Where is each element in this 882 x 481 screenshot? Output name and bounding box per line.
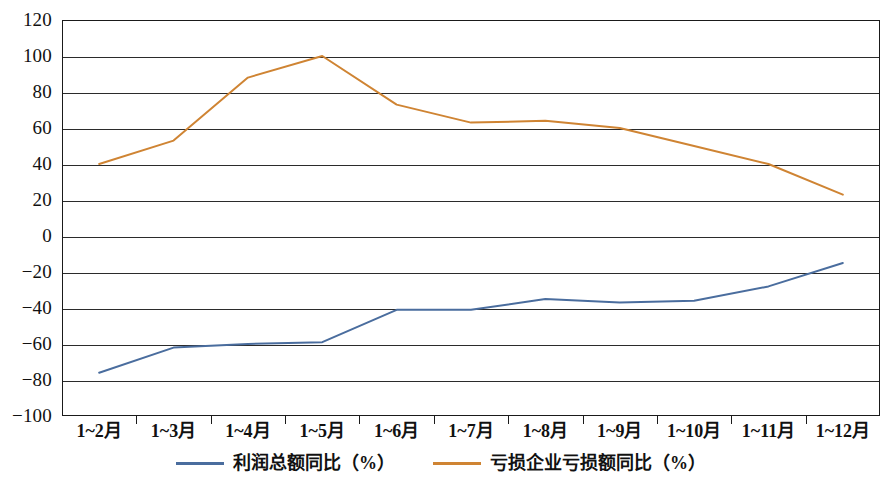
legend-label: 亏损企业亏损额同比（%） bbox=[490, 452, 706, 474]
y-axis-tick-label: 120 bbox=[0, 10, 52, 29]
x-axis-tick-label: 1~5月 bbox=[300, 420, 345, 442]
line-chart: 120100806040200−20−40−60−80−100 1~2月1~3月… bbox=[0, 0, 882, 481]
y-axis-tick-label: −60 bbox=[0, 334, 52, 353]
x-axis-tick-label: 1~6月 bbox=[374, 420, 419, 442]
x-axis-tick-label: 1~12月 bbox=[816, 420, 870, 442]
x-axis-tick-label: 1~7月 bbox=[448, 420, 493, 442]
legend-line-icon bbox=[433, 462, 481, 465]
series-layer bbox=[62, 20, 880, 416]
x-axis-tick-label: 1~10月 bbox=[667, 420, 721, 442]
y-axis-tick-label: −20 bbox=[0, 262, 52, 281]
legend-line-icon bbox=[176, 462, 224, 465]
series-line bbox=[99, 56, 843, 195]
legend-item[interactable]: 利润总额同比（%） bbox=[176, 452, 395, 474]
legend-item[interactable]: 亏损企业亏损额同比（%） bbox=[433, 452, 706, 474]
x-axis-tick-label: 1~11月 bbox=[742, 420, 795, 442]
x-axis-tick-label: 1~9月 bbox=[597, 420, 642, 442]
y-axis-tick-label: 60 bbox=[0, 118, 52, 137]
y-axis-tick-label: 20 bbox=[0, 190, 52, 209]
y-axis-tick-label: 0 bbox=[0, 226, 52, 245]
series-line bbox=[99, 263, 843, 373]
legend-label: 利润总额同比（%） bbox=[233, 452, 395, 474]
y-axis-tick-label: 80 bbox=[0, 82, 52, 101]
x-axis-tick-label: 1~8月 bbox=[523, 420, 568, 442]
x-axis-tick-label: 1~4月 bbox=[225, 420, 270, 442]
chart-legend: 利润总额同比（%）亏损企业亏损额同比（%） bbox=[0, 452, 882, 474]
x-axis: 1~2月1~3月1~4月1~5月1~6月1~7月1~8月1~9月1~10月1~1… bbox=[62, 420, 880, 450]
y-axis-tick-label: −40 bbox=[0, 298, 52, 317]
y-axis-tick-label: −100 bbox=[0, 406, 52, 425]
x-axis-tick-label: 1~3月 bbox=[151, 420, 196, 442]
y-axis-tick-label: −80 bbox=[0, 370, 52, 389]
y-axis-tick-label: 100 bbox=[0, 46, 52, 65]
y-axis-tick-label: 40 bbox=[0, 154, 52, 173]
x-axis-tick-label: 1~2月 bbox=[76, 420, 121, 442]
